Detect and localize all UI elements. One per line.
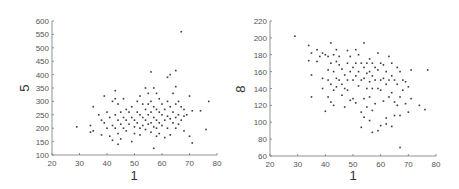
data-point: [167, 127, 169, 129]
data-point: [161, 125, 163, 127]
data-point: [327, 69, 329, 71]
data-point: [208, 101, 210, 103]
x-tick-label: 60: [376, 160, 385, 169]
data-point: [333, 54, 335, 56]
x-tick-label: 30: [293, 160, 302, 169]
data-point: [158, 98, 160, 100]
data-point: [380, 89, 382, 91]
data-point: [405, 81, 407, 83]
scatter-chart-right: 608010012014016018020022020304050607080: [254, 17, 441, 169]
y-tick-label: 300: [36, 97, 50, 106]
data-point: [139, 134, 141, 136]
data-point: [366, 106, 368, 108]
data-point: [402, 79, 404, 81]
data-point: [344, 88, 346, 90]
x-tick-label: 20: [48, 159, 57, 168]
data-point: [358, 54, 360, 56]
data-point: [183, 130, 185, 132]
data-point: [369, 71, 371, 73]
data-point: [167, 101, 169, 103]
data-point: [369, 120, 371, 122]
data-point: [134, 133, 136, 135]
data-point: [361, 79, 363, 81]
data-point: [402, 89, 404, 91]
data-point: [408, 111, 410, 113]
y-tick-label: 120: [254, 101, 268, 110]
data-point: [101, 119, 103, 121]
y-axis-label-left: 5: [17, 84, 32, 91]
data-point: [341, 83, 343, 85]
y-tick-label: 150: [36, 138, 50, 147]
data-point: [399, 147, 401, 149]
data-point: [327, 96, 329, 98]
data-point: [147, 103, 149, 105]
data-point: [316, 49, 318, 51]
data-point: [183, 115, 185, 117]
data-point: [172, 111, 174, 113]
data-point: [333, 71, 335, 73]
data-point: [380, 79, 382, 81]
data-point: [352, 79, 354, 81]
data-point: [123, 98, 125, 100]
data-point: [164, 137, 166, 139]
y-tick-label: 600: [36, 17, 50, 26]
data-point: [120, 111, 122, 113]
data-point: [388, 96, 390, 98]
data-point: [131, 141, 133, 143]
data-point: [377, 88, 379, 90]
data-point: [349, 71, 351, 73]
y-tick-label: 180: [254, 51, 268, 60]
data-point: [109, 117, 111, 119]
data-point: [125, 109, 127, 111]
data-point: [396, 83, 398, 85]
data-point: [150, 71, 152, 73]
data-point: [169, 74, 171, 76]
data-point: [117, 133, 119, 135]
data-point: [103, 95, 105, 97]
data-point: [372, 132, 374, 134]
data-point: [145, 119, 147, 121]
data-point: [377, 130, 379, 132]
data-point: [333, 105, 335, 107]
data-point: [347, 79, 349, 81]
data-point: [338, 56, 340, 58]
data-point: [103, 122, 105, 124]
data-point: [319, 56, 321, 58]
data-point: [106, 111, 108, 113]
y-tick-label: 400: [36, 71, 50, 80]
data-point: [114, 114, 116, 116]
data-point: [120, 138, 122, 140]
data-point: [366, 62, 368, 64]
data-point: [178, 114, 180, 116]
data-point: [117, 143, 119, 145]
data-point: [394, 101, 396, 103]
data-point: [311, 74, 313, 76]
y-tick-label: 140: [254, 85, 268, 94]
data-point: [189, 135, 191, 137]
data-point: [147, 114, 149, 116]
data-point: [112, 139, 114, 141]
data-point: [134, 126, 136, 128]
data-point: [164, 119, 166, 121]
data-point: [175, 117, 177, 119]
data-point: [175, 86, 177, 88]
data-point: [136, 101, 138, 103]
data-point: [391, 92, 393, 94]
data-point: [172, 93, 174, 95]
data-point: [322, 52, 324, 54]
data-point: [101, 134, 103, 136]
data-point: [424, 109, 426, 111]
data-point: [352, 98, 354, 100]
data-point: [147, 93, 149, 95]
data-point: [372, 75, 374, 77]
data-point: [112, 101, 114, 103]
data-point: [153, 148, 155, 150]
data-point: [361, 111, 363, 113]
y-tick-label: 220: [254, 17, 268, 26]
data-point: [322, 88, 324, 90]
data-point: [136, 122, 138, 124]
data-point: [388, 56, 390, 58]
x-tick-label: 30: [75, 159, 84, 168]
data-point: [183, 109, 185, 111]
data-point: [383, 78, 385, 80]
